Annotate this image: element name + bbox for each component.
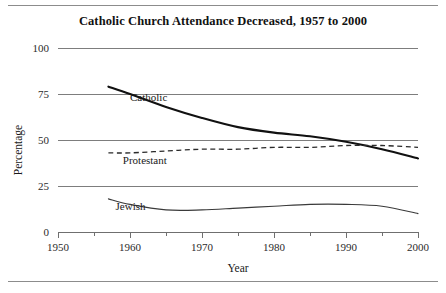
series-label-catholic: Catholic [130,91,167,103]
y-tick-label-0: 0 [44,226,50,238]
y-tick-label-50: 50 [38,134,50,146]
y-tick-labels-group: 0255075100 [33,42,50,238]
y-tick-label-75: 75 [38,88,50,100]
x-tick-label-1980: 1980 [263,241,286,253]
y-axis-title: Percentage [12,125,25,175]
chart-plot: 0255075100 195019601970198019902000 Cath… [0,0,446,293]
figure-container: Catholic Church Attendance Decreased, 19… [0,0,446,293]
y-tick-label-25: 25 [38,180,50,192]
x-tick-label-1970: 1970 [191,241,214,253]
x-axis-group [58,232,418,238]
y-tick-label-100: 100 [33,42,50,54]
figure-bottom-rule [8,281,438,282]
series-line-jewish [108,199,418,214]
series-lines-group [108,87,418,214]
x-axis-title: Year [227,262,248,274]
x-tick-label-1950: 1950 [47,241,70,253]
x-tick-label-1990: 1990 [335,241,358,253]
series-label-jewish: Jewish [116,200,146,212]
series-label-protestant: Protestant [123,154,167,166]
x-tick-label-2000: 2000 [407,241,430,253]
x-tick-label-1960: 1960 [119,241,142,253]
x-tick-labels-group: 195019601970198019902000 [47,241,430,253]
